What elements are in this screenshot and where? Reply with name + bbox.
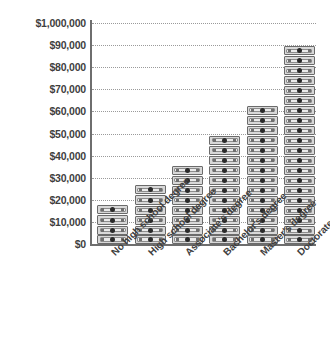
dollar-bill-corner-left [288,79,291,82]
dollar-bill-corner-left [213,169,216,172]
y-axis-tick-label: $70,000 [0,83,86,95]
dollar-bill-corner-left [101,229,104,232]
dollar-bill-corner-left [176,199,179,202]
dollar-bill-icon [209,196,240,205]
dollar-bill-corner-right [233,209,236,212]
y-axis-tick-label: $30,000 [0,172,86,184]
dollar-bill-corner-right [308,49,311,52]
dollar-bill-icon [284,176,315,185]
dollar-bill-icon [284,166,315,175]
dollar-bill-corner-left [213,219,216,222]
bar[interactable] [209,135,240,244]
dollar-bill-corner-right [233,189,236,192]
dollar-bill-icon [135,226,166,235]
dollar-bill-corner-right [233,179,236,182]
dollar-bill-corner-right [308,199,311,202]
dollar-bill-corner-right [196,229,199,232]
dollar-bill-icon [247,146,278,155]
bars-group [92,23,316,244]
dollar-bill-corner-right [196,189,199,192]
dollar-bill-corner-left [213,159,216,162]
dollar-bill-corner-left [139,188,142,191]
bar[interactable] [247,105,278,244]
dollar-bill-icon [247,186,278,195]
dollar-bill-corner-right [308,129,311,132]
x-axis-tick-label: Master's degree [258,250,266,258]
bar[interactable] [172,164,203,244]
dollar-bill-corner-left [288,229,291,232]
dollar-bill-corner-left [288,199,291,202]
dollar-bill-corner-left [213,189,216,192]
dollar-bill-icon [172,216,203,225]
dollar-bill-icon [284,235,315,244]
dollar-bill-icon [135,185,166,194]
y-axis-tick-label: $90,000 [0,39,86,51]
dollar-bill-corner-right [196,199,199,202]
dollar-bill-icon [209,166,240,175]
dollar-bill-icon [247,106,278,115]
dollar-bill-icon [284,136,315,145]
dollar-bill-corner-right [233,159,236,162]
y-axis-tick-label: $50,000 [0,128,86,140]
dollar-bill-icon [209,146,240,155]
dollar-bill-corner-right [196,209,199,212]
dollar-bill-corner-right [271,139,274,142]
dollar-bill-corner-right [121,208,124,211]
dollar-bill-corner-left [288,238,291,241]
dollar-bill-corner-left [288,179,291,182]
dollar-bill-corner-left [139,199,142,202]
dollar-bill-corner-right [121,238,124,241]
dollar-bill-corner-right [308,69,311,72]
dollar-bill-corner-left [251,209,254,212]
dollar-bill-icon [247,156,278,165]
x-axis-tick-label: Bachelor's degree [221,250,229,258]
dollar-bill-corner-left [251,109,254,112]
dollar-bill-corner-right [308,79,311,82]
dollar-bill-corner-right [271,238,274,241]
dollar-bill-corner-left [288,119,291,122]
dollar-bill-corner-right [159,199,162,202]
dollar-bill-corner-right [233,169,236,172]
dollar-bill-icon [284,156,315,165]
dollar-bill-icon [247,136,278,145]
dollar-bill-corner-left [288,99,291,102]
x-axis-tick-label: High school degree [146,250,154,258]
dollar-bill-corner-right [159,209,162,212]
dollar-bill-corner-right [233,199,236,202]
dollar-bill-corner-right [308,238,311,241]
dollar-bill-corner-left [251,238,254,241]
dollar-bill-corner-right [271,149,274,152]
dollar-bill-icon [284,86,315,95]
dollar-bill-corner-right [308,99,311,102]
dollar-bill-corner-left [288,139,291,142]
dollar-bill-icon [284,206,315,215]
dollar-bill-corner-left [139,219,142,222]
dollar-bill-corner-left [251,139,254,142]
y-axis-tick-label: $1,000,000 [0,17,86,29]
dollar-bill-corner-right [271,229,274,232]
dollar-bill-corner-right [308,229,311,232]
bar[interactable] [97,204,128,244]
dollar-bill-corner-left [176,229,179,232]
bar[interactable] [135,184,166,244]
dollar-bill-corner-left [176,179,179,182]
dollar-bill-icon [209,156,240,165]
dollar-bill-corner-left [288,69,291,72]
dollar-bill-corner-left [139,209,142,212]
dollar-bill-corner-left [101,208,104,211]
bar[interactable] [284,45,315,244]
dollar-bill-corner-right [121,229,124,232]
dollar-bill-corner-left [288,49,291,52]
dollar-bill-corner-left [176,219,179,222]
dollar-bill-icon [284,186,315,195]
dollar-bill-icon [135,206,166,215]
dollar-bill-corner-left [251,159,254,162]
dollar-bill-corner-left [288,169,291,172]
dollar-bill-icon [247,166,278,175]
dollar-bill-corner-right [271,209,274,212]
dollar-bill-corner-right [271,119,274,122]
dollar-bill-icon [247,216,278,225]
dollar-bill-icon [209,235,240,244]
dollar-bill-corner-left [176,209,179,212]
dollar-bill-corner-right [196,219,199,222]
